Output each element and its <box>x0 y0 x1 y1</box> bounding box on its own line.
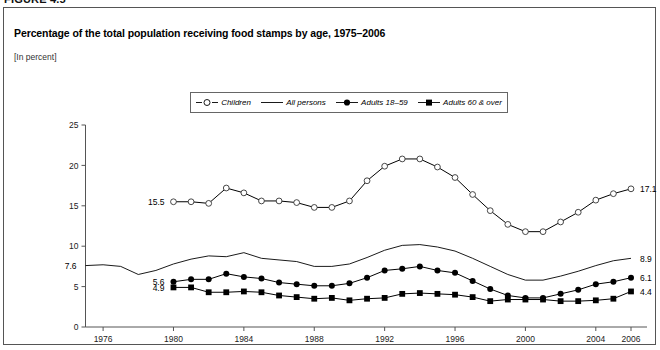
data-point <box>575 287 581 293</box>
value-label: 15.5 <box>148 197 165 207</box>
data-point <box>329 205 335 211</box>
x-axis-ticks: 197619801984198819921996200020042006 <box>94 327 641 344</box>
data-point <box>259 198 265 204</box>
data-point <box>558 298 564 304</box>
data-point <box>611 296 617 302</box>
data-point <box>382 267 388 273</box>
data-point <box>399 266 405 272</box>
data-point <box>575 209 581 215</box>
data-point <box>188 276 194 282</box>
data-point <box>540 229 546 235</box>
data-point <box>435 291 441 297</box>
data-point <box>487 286 493 292</box>
data-point <box>206 200 212 206</box>
data-point <box>558 219 564 225</box>
value-label: 6.1 <box>640 273 652 283</box>
value-label: 17.1 <box>640 184 657 194</box>
data-point <box>417 263 423 269</box>
data-point <box>628 186 634 192</box>
data-point <box>417 290 423 296</box>
data-point <box>223 185 229 191</box>
x-tick-label: 1996 <box>446 334 465 344</box>
data-point <box>505 297 511 303</box>
data-point <box>259 289 265 295</box>
data-point <box>523 297 529 303</box>
chart-plot-area: 0510152025197619801984198819921996200020… <box>4 8 657 346</box>
data-point <box>487 208 493 214</box>
data-point <box>470 192 476 198</box>
data-point <box>171 285 177 291</box>
data-point <box>311 283 317 289</box>
data-point <box>611 191 617 197</box>
data-point <box>276 198 282 204</box>
x-tick-label: 2000 <box>516 334 535 344</box>
y-tick-label: 20 <box>69 161 79 171</box>
data-point <box>241 190 247 196</box>
data-point <box>311 205 317 211</box>
data-point <box>399 291 405 297</box>
data-point <box>575 298 581 304</box>
data-point <box>399 156 405 162</box>
y-tick-label: 10 <box>69 241 79 251</box>
data-point <box>558 291 564 297</box>
data-point <box>628 289 634 295</box>
data-point <box>347 297 353 303</box>
data-point <box>364 275 370 281</box>
data-point <box>329 283 335 289</box>
y-tick-label: 0 <box>74 322 79 332</box>
data-point <box>258 276 264 282</box>
data-point <box>540 297 546 303</box>
data-point <box>452 270 458 276</box>
value-label: 8.9 <box>640 254 652 264</box>
data-point <box>206 289 212 295</box>
value-label: 4.4 <box>640 287 652 297</box>
data-point <box>170 279 176 285</box>
data-point <box>434 267 440 273</box>
y-tick-label: 15 <box>69 201 79 211</box>
data-point <box>382 163 388 169</box>
series-adults-60-over <box>171 285 634 305</box>
data-point <box>470 278 476 284</box>
data-point <box>188 199 194 205</box>
series-all-persons <box>86 245 632 281</box>
data-point <box>523 229 529 235</box>
data-point <box>311 296 317 302</box>
value-label: 7.6 <box>65 261 77 271</box>
data-point <box>417 156 423 162</box>
data-point <box>435 164 441 170</box>
x-tick-label: 1992 <box>375 334 394 344</box>
x-tick-label: 1976 <box>94 334 113 344</box>
data-point <box>470 294 476 300</box>
y-axis-ticks: 0510152025 <box>69 120 85 332</box>
data-point <box>364 178 370 184</box>
data-point <box>628 275 634 281</box>
x-tick-label: 1984 <box>234 334 253 344</box>
data-point <box>206 276 212 282</box>
data-point <box>241 289 247 295</box>
data-point <box>346 280 352 286</box>
data-point <box>347 198 353 204</box>
x-tick-label: 1988 <box>305 334 324 344</box>
data-point <box>487 298 493 304</box>
data-point <box>294 200 300 206</box>
data-point <box>452 175 458 181</box>
data-point <box>610 279 616 285</box>
data-point <box>329 295 335 301</box>
figure-panel: Percentage of the total population recei… <box>3 7 656 345</box>
series-line <box>86 245 632 281</box>
data-point <box>294 281 300 287</box>
data-point <box>593 197 599 203</box>
x-tick-label: 1980 <box>164 334 183 344</box>
data-point <box>505 221 511 227</box>
x-tick-label: 2006 <box>622 334 641 344</box>
data-point <box>294 294 300 300</box>
y-tick-label: 25 <box>69 120 79 130</box>
data-point <box>364 296 370 302</box>
data-point <box>276 293 282 299</box>
data-point <box>452 292 458 298</box>
y-tick-label: 5 <box>74 282 79 292</box>
value-label: 4.9 <box>153 283 165 293</box>
data-point <box>593 281 599 287</box>
data-point <box>241 274 247 280</box>
data-point <box>188 285 194 291</box>
